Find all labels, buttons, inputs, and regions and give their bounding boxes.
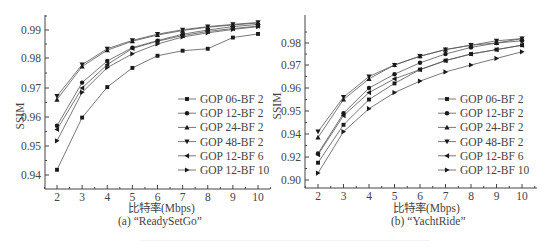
- triangle-right-marker-icon: [443, 69, 448, 74]
- square-marker-icon: [231, 36, 235, 40]
- triangle-right-marker-icon: [367, 106, 372, 111]
- square-marker-icon: [130, 66, 134, 70]
- square-marker-icon: [393, 81, 397, 85]
- y-tick-label: 0.97: [21, 82, 41, 94]
- legend-item: GOP 12-BF 6: [178, 150, 264, 162]
- x-tick-label: 4: [366, 190, 372, 202]
- x-tick-label: 2: [315, 190, 321, 202]
- x-tick-label: 2: [54, 191, 60, 203]
- square-marker-icon: [156, 54, 160, 58]
- x-tick-label: 8: [205, 191, 211, 203]
- triangle-up-marker-icon: [315, 135, 320, 140]
- circle-marker-icon: [367, 86, 371, 90]
- x-axis-label: 比特率(Mbps): [393, 199, 460, 215]
- y-tick-label: 0.90: [281, 174, 301, 186]
- square-marker-icon: [55, 168, 59, 172]
- y-tick-label: 0.95: [21, 140, 41, 152]
- legend-item: GOP 12-BF 10: [178, 164, 269, 176]
- y-tick-label: 0.99: [21, 24, 41, 36]
- triangle-left-marker-icon: [392, 76, 397, 81]
- legend-item: GOP 12-BF 10: [438, 164, 529, 176]
- triangle-right-marker-icon: [445, 167, 450, 172]
- y-tick-label: 0.94: [21, 169, 41, 181]
- triangle-right-marker-icon: [185, 167, 190, 172]
- legend: GOP 06-BF 2GOP 12-BF 2GOP 24-BF 2GOP 48-…: [438, 93, 529, 176]
- x-tick-label: 3: [79, 191, 85, 203]
- x-tick-label: 8: [468, 190, 474, 202]
- y-tick-label: 0.94: [281, 128, 301, 140]
- legend-label: GOP 48-BF 2: [460, 136, 524, 148]
- square-marker-icon: [367, 98, 371, 102]
- y-tick-label: 0.96: [281, 82, 301, 94]
- y-tick-label: 0.98: [21, 52, 41, 64]
- square-marker-icon: [316, 161, 320, 165]
- legend-label: GOP 24-BF 2: [460, 121, 524, 133]
- chart-caption: (b) “YachtRide”: [391, 215, 466, 227]
- circle-marker-icon: [418, 61, 422, 65]
- series-gop-48-bf-2: [54, 20, 260, 98]
- triangle-down-marker-icon: [54, 94, 59, 99]
- y-tick-label: 0.98: [281, 37, 301, 49]
- legend-label: GOP 12-BF 2: [460, 107, 524, 119]
- series-gop-48-bf-2: [315, 37, 524, 135]
- x-tick-label: 3: [341, 190, 347, 202]
- square-marker-icon: [185, 97, 189, 101]
- square-marker-icon: [206, 47, 210, 51]
- x-tick-label: 10: [252, 191, 264, 203]
- legend-label: GOP 06-BF 2: [200, 93, 264, 105]
- chart-panel-readysetgo: 0.940.950.960.970.980.992345678910GOP 06…: [0, 0, 275, 247]
- circle-marker-icon: [445, 111, 449, 115]
- x-tick-label: 4: [104, 191, 110, 203]
- square-marker-icon: [181, 49, 185, 53]
- triangle-right-marker-icon: [494, 56, 499, 61]
- y-axis-label: SSIM: [271, 86, 283, 126]
- y-tick-label: 0.97: [281, 59, 301, 71]
- legend-item: GOP 12-BF 6: [438, 150, 524, 162]
- legend-item: GOP 06-BF 2: [438, 93, 524, 105]
- legend-item: GOP 24-BF 2: [438, 121, 524, 133]
- triangle-right-marker-icon: [418, 79, 423, 84]
- legend-label: GOP 12-BF 10: [200, 164, 269, 176]
- x-tick-label: 9: [230, 191, 236, 203]
- circle-marker-icon: [443, 52, 447, 56]
- legend-label: GOP 12-BF 6: [200, 150, 264, 162]
- divider: [140, 240, 430, 241]
- legend-label: GOP 12-BF 2: [200, 107, 264, 119]
- legend-label: GOP 24-BF 2: [200, 121, 264, 133]
- triangle-right-marker-icon: [55, 138, 60, 143]
- triangle-down-marker-icon: [315, 130, 320, 135]
- chart-panel-yachtride: 0.900.920.940.950.960.970.982345678910GO…: [275, 0, 551, 247]
- square-marker-icon: [80, 116, 84, 120]
- x-axis-label: 比特率(Mbps): [128, 199, 195, 215]
- legend: GOP 06-BF 2GOP 12-BF 2GOP 24-BF 2GOP 48-…: [178, 93, 269, 176]
- legend-item: GOP 12-BF 2: [178, 107, 264, 119]
- y-tick-label: 0.95: [281, 105, 301, 117]
- legend-label: GOP 06-BF 2: [460, 93, 524, 105]
- triangle-right-marker-icon: [316, 171, 321, 176]
- square-marker-icon: [445, 97, 449, 101]
- x-tick-label: 9: [494, 190, 500, 202]
- legend-label: GOP 48-BF 2: [200, 136, 264, 148]
- chart-caption: (a) “ReadySetGo”: [118, 215, 202, 227]
- circle-marker-icon: [185, 111, 189, 115]
- legend-label: GOP 12-BF 6: [460, 150, 524, 162]
- legend-label: GOP 12-BF 10: [460, 164, 529, 176]
- square-marker-icon: [256, 32, 260, 36]
- square-marker-icon: [105, 85, 109, 89]
- y-axis-label: SSIM: [14, 96, 26, 136]
- legend-item: GOP 24-BF 2: [178, 121, 264, 133]
- triangle-right-marker-icon: [469, 62, 474, 67]
- legend-item: GOP 06-BF 2: [178, 93, 264, 105]
- y-tick-label: 0.92: [281, 151, 301, 163]
- legend-item: GOP 48-BF 2: [438, 136, 524, 148]
- triangle-down-marker-icon: [105, 47, 110, 52]
- triangle-right-marker-icon: [520, 49, 525, 54]
- circle-marker-icon: [80, 80, 84, 84]
- legend-item: GOP 12-BF 2: [438, 107, 524, 119]
- triangle-right-marker-icon: [130, 51, 135, 56]
- x-tick-label: 10: [516, 190, 528, 202]
- circle-marker-icon: [392, 72, 396, 76]
- triangle-left-marker-icon: [184, 153, 189, 158]
- legend-item: GOP 48-BF 2: [178, 136, 264, 148]
- triangle-left-marker-icon: [444, 153, 449, 158]
